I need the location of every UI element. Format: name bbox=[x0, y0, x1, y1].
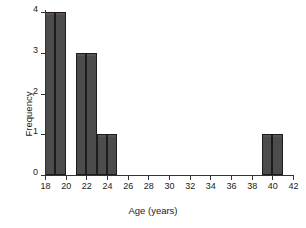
bar-top-edge bbox=[77, 54, 85, 56]
histogram-bar bbox=[86, 53, 96, 175]
y-tick-mark bbox=[41, 94, 45, 95]
y-axis-line bbox=[45, 10, 46, 177]
bar-top-edge bbox=[46, 13, 54, 15]
x-axis-title: Age (years) bbox=[0, 205, 306, 216]
x-tick-mark bbox=[107, 176, 108, 180]
bar-top-edge bbox=[108, 135, 116, 137]
x-tick-mark bbox=[293, 176, 294, 180]
x-tick-mark bbox=[169, 176, 170, 180]
x-tick-label: 30 bbox=[164, 182, 174, 191]
x-tick-label: 26 bbox=[123, 182, 133, 191]
y-tick-label: 0 bbox=[33, 168, 38, 177]
x-tick-label: 34 bbox=[206, 182, 216, 191]
x-tick-mark bbox=[128, 176, 129, 180]
x-tick-label: 40 bbox=[268, 182, 278, 191]
x-tick-mark bbox=[210, 176, 211, 180]
bar-top-edge bbox=[98, 135, 106, 137]
x-tick-mark bbox=[45, 176, 46, 180]
x-tick-label: 32 bbox=[185, 182, 195, 191]
y-tick-mark bbox=[41, 53, 45, 54]
bar-top-edge bbox=[87, 54, 95, 56]
y-axis-title: Frequency bbox=[23, 92, 34, 137]
x-tick-label: 42 bbox=[288, 182, 298, 191]
histogram-bar bbox=[45, 12, 55, 175]
bar-top-edge bbox=[56, 13, 64, 15]
x-tick-label: 22 bbox=[82, 182, 92, 191]
histogram-bar bbox=[76, 53, 86, 175]
y-tick-label: 3 bbox=[33, 46, 38, 55]
x-tick-mark bbox=[86, 176, 87, 180]
histogram-bar bbox=[272, 134, 282, 175]
x-tick-mark bbox=[272, 176, 273, 180]
histogram-figure: 01234 18202224262830323436384042 Age (ye… bbox=[0, 0, 306, 228]
histogram-bar bbox=[262, 134, 272, 175]
x-tick-mark bbox=[252, 176, 253, 180]
x-tick-label: 38 bbox=[247, 182, 257, 191]
y-tick-mark bbox=[41, 12, 45, 13]
bars-layer bbox=[45, 12, 293, 175]
y-tick-mark bbox=[41, 134, 45, 135]
plot-area bbox=[45, 12, 293, 175]
x-tick-mark bbox=[66, 176, 67, 180]
x-tick-label: 28 bbox=[144, 182, 154, 191]
histogram-bar bbox=[97, 134, 107, 175]
x-tick-label: 18 bbox=[40, 182, 50, 191]
x-tick-mark bbox=[148, 176, 149, 180]
x-tick-label: 36 bbox=[226, 182, 236, 191]
bar-top-edge bbox=[263, 135, 271, 137]
x-tick-mark bbox=[231, 176, 232, 180]
histogram-bar bbox=[55, 12, 65, 175]
histogram-bar bbox=[107, 134, 117, 175]
y-tick-label: 4 bbox=[33, 5, 38, 14]
bar-top-edge bbox=[273, 135, 281, 137]
x-tick-mark bbox=[190, 176, 191, 180]
x-tick-label: 20 bbox=[61, 182, 71, 191]
x-tick-label: 24 bbox=[102, 182, 112, 191]
